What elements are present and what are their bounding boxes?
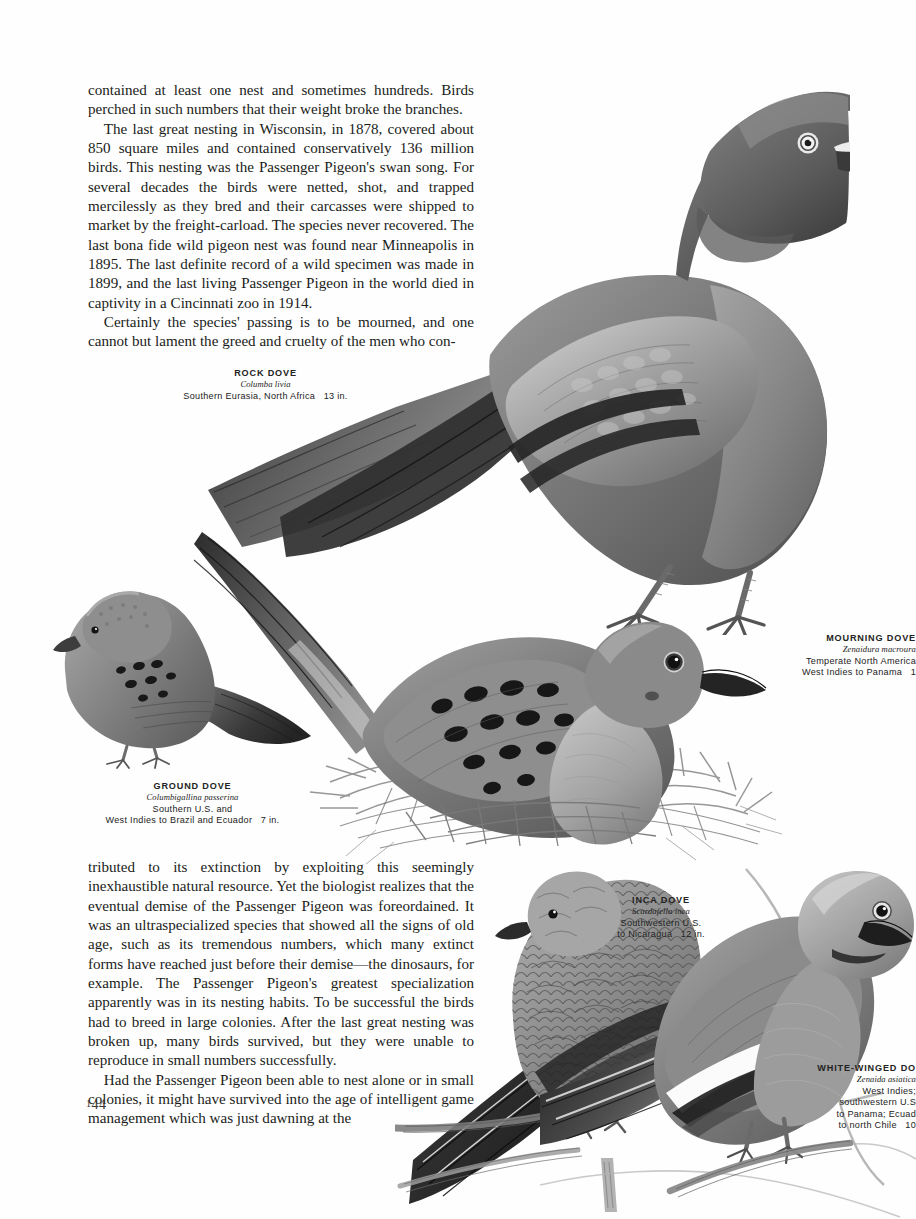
caption-mourning-dove: MOURNING DOVE Zenaidura macroura Tempera… [700, 633, 916, 679]
page-number: 144 [86, 1097, 107, 1113]
caption-range-line-1: West Indies; [740, 1086, 916, 1097]
caption-size: 12 in. [681, 929, 705, 939]
caption-range-text: to Nicaragua [617, 929, 672, 939]
caption-range-line-4: to north Chile 10 [740, 1120, 916, 1131]
paragraph: tributed to its extinction by exploiting… [88, 858, 474, 1071]
caption-rock-dove: ROCK DOVE Columba livia Southern Eurasia… [177, 368, 354, 402]
caption-range-text: to north Chile [839, 1120, 897, 1130]
caption-latin-name: Scardafella inca [593, 906, 729, 917]
caption-range-line-1: Southern U.S. and [75, 804, 310, 815]
caption-range-line-3: to Panama; Ecuad [740, 1109, 916, 1120]
caption-common-name: ROCK DOVE [177, 368, 354, 379]
caption-ground-dove: GROUND DOVE Columbigallina passerina Sou… [75, 781, 310, 827]
caption-inca-dove: INCA DOVE Scardafella inca Southwestern … [593, 895, 729, 941]
body-text-bottom: tributed to its extinction by exploiting… [88, 858, 474, 1129]
paragraph: contained at least one nest and sometime… [88, 81, 474, 120]
page-number-value: 44 [92, 1097, 107, 1112]
caption-range-text: West Indies to Brazil and Ecuador [106, 815, 253, 825]
caption-range-line-2: to Nicaragua 12 in. [593, 929, 729, 940]
caption-size: 10 [905, 1120, 916, 1130]
caption-latin-name: Columbigallina passerina [75, 792, 310, 803]
caption-latin-name: Columba livia [177, 379, 354, 390]
caption-range-line-1: Temperate North America [700, 656, 916, 667]
caption-range: Southern Eurasia, North Africa 13 in. [177, 391, 354, 402]
caption-range-line-2: southwestern U.S [740, 1097, 916, 1108]
caption-latin-name: Zenaidura macroura [700, 644, 916, 655]
caption-size: 13 in. [324, 391, 348, 401]
caption-common-name: MOURNING DOVE [700, 633, 916, 644]
ground-dove-illustration [35, 578, 325, 778]
book-page: contained at least one nest and sometime… [0, 0, 916, 1219]
caption-white-winged-dove: WHITE-WINGED DO Zenaida asiatica West In… [740, 1063, 916, 1131]
caption-range-text: Southern Eurasia, North Africa [183, 391, 315, 401]
caption-common-name: WHITE-WINGED DO [740, 1063, 916, 1074]
caption-latin-name: Zenaida asiatica [740, 1074, 916, 1085]
caption-range-line-2: West Indies to Panama 1 [700, 667, 916, 678]
paragraph: Had the Passenger Pigeon been able to ne… [88, 1071, 474, 1129]
paragraph: Certainly the species' passing is to be … [88, 313, 474, 352]
body-text-top: contained at least one nest and sometime… [88, 81, 474, 352]
caption-size: 1 [911, 667, 916, 677]
paragraph: The last great nesting in Wisconsin, in … [88, 120, 474, 313]
caption-common-name: INCA DOVE [593, 895, 729, 906]
caption-range-line-2: West Indies to Brazil and Ecuador 7 in. [75, 815, 310, 826]
caption-range-text: West Indies to Panama [802, 667, 902, 677]
caption-common-name: GROUND DOVE [75, 781, 310, 792]
caption-range-line-1: Southwestern U.S. [593, 918, 729, 929]
caption-size: 7 in. [261, 815, 280, 825]
